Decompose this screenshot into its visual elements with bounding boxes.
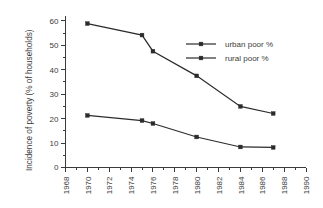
y-tick-label: 0 [54, 163, 59, 172]
y-axis-title: Incidence of poverty (% of households) [25, 29, 34, 171]
x-tick-label: 1976 [149, 176, 158, 194]
y-axis-title-text: Incidence of poverty (% of households) [25, 29, 34, 171]
y-tick-label: 40 [50, 66, 59, 75]
data-point-marker [239, 145, 243, 149]
legend-item: urban poor % [186, 40, 273, 49]
legend-marker-swatch [199, 56, 203, 60]
data-point-marker [271, 146, 275, 150]
data-series [85, 22, 275, 116]
data-point-marker [271, 112, 275, 116]
x-tick-label: 1986 [258, 176, 267, 194]
data-point-marker [151, 49, 155, 53]
x-tick-label: 1982 [215, 176, 224, 194]
x-tick-label: 1988 [280, 176, 289, 194]
x-tick-label: 1972 [105, 176, 114, 194]
data-point-marker [140, 119, 144, 123]
series-line [87, 24, 273, 114]
y-tick-label: 50 [50, 41, 59, 50]
poverty-incidence-line-chart: Incidence of poverty (% of households) 0… [0, 0, 323, 208]
x-axis-ticks [66, 168, 307, 173]
y-axis-tick-labels: 0102030405060 [50, 17, 59, 173]
x-tick-label: 1990 [302, 176, 311, 194]
chart-canvas: Incidence of poverty (% of households) 0… [0, 0, 323, 208]
y-tick-label: 20 [50, 115, 59, 124]
x-axis-tick-labels: 1968197019721974197619781980198219841986… [62, 176, 312, 194]
series-line [87, 115, 273, 147]
x-tick-label: 1968 [62, 176, 71, 194]
y-tick-label: 30 [50, 90, 59, 99]
legend-label: urban poor % [225, 40, 273, 49]
x-tick-label: 1980 [193, 176, 202, 194]
data-point-marker [85, 114, 89, 118]
legend-marker-swatch [199, 42, 203, 46]
x-tick-label: 1984 [237, 176, 246, 194]
data-point-marker [195, 135, 199, 139]
x-tick-label: 1974 [127, 176, 136, 194]
data-point-marker [151, 122, 155, 126]
y-tick-label: 10 [50, 139, 59, 148]
data-point-marker [140, 33, 144, 37]
data-point-marker [195, 74, 199, 78]
x-tick-label: 1970 [84, 176, 93, 194]
y-axis-ticks [61, 21, 66, 168]
legend-label: rural poor % [225, 54, 269, 63]
chart-legend: urban poor %rural poor % [186, 40, 273, 63]
x-tick-label: 1978 [171, 176, 180, 194]
legend-item: rural poor % [186, 54, 269, 63]
y-tick-label: 60 [50, 17, 59, 26]
data-point-marker [85, 22, 89, 26]
data-series [85, 114, 275, 150]
data-point-marker [239, 105, 243, 109]
